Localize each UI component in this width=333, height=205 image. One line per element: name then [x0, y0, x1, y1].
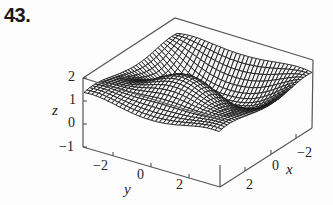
z-tick-1: 1	[69, 93, 76, 107]
z-tick-neg1: −1	[59, 140, 74, 154]
y-tick-0: 0	[137, 168, 144, 182]
x-tick-0: 0	[272, 159, 279, 173]
z-tick-0: 0	[68, 116, 75, 130]
x-axis-label: x	[286, 162, 293, 177]
surface-plot	[0, 0, 333, 205]
x-tick-2: 2	[246, 178, 253, 192]
z-axis-label: z	[52, 103, 58, 118]
figure: 43. 2 1 0	[0, 0, 333, 205]
y-axis-label: y	[124, 182, 131, 197]
y-tick-neg2: −2	[93, 159, 108, 173]
z-tick-2: 2	[68, 70, 75, 84]
x-tick-neg2: −2	[297, 146, 312, 160]
y-tick-2: 2	[176, 178, 183, 192]
